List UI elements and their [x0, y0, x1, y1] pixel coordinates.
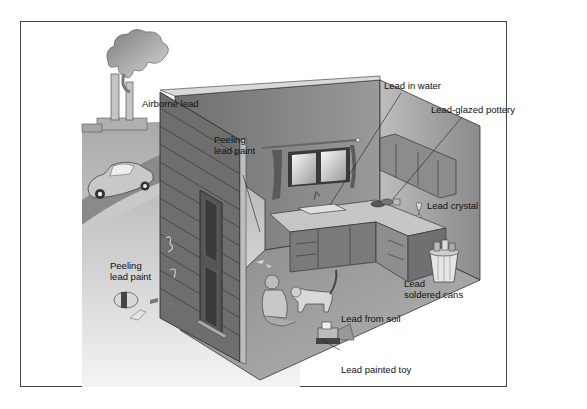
label-lead-soldered-cans: Lead soldered cans — [404, 278, 463, 300]
label-line: lead paint — [214, 145, 255, 156]
label-line: Peeling — [110, 260, 151, 271]
lead-sources-illustration — [0, 0, 587, 409]
factory-smokestacks — [82, 74, 147, 132]
label-lead-glazed-pottery: Lead-glazed pottery — [431, 104, 515, 115]
label-peeling-paint-inside: Peeling lead paint — [214, 134, 255, 156]
label-airborne-lead: Airborne lead — [142, 98, 199, 109]
label-peeling-paint-outside: Peeling lead paint — [110, 260, 151, 282]
label-lead-crystal: Lead crystal — [427, 200, 478, 211]
label-lead-in-water: Lead in water — [384, 80, 441, 91]
label-line: lead paint — [110, 271, 151, 282]
label-line: soldered cans — [404, 289, 463, 300]
label-lead-from-soil: Lead from soil — [341, 313, 401, 324]
label-line: Peeling — [214, 134, 255, 145]
label-line: Lead — [404, 278, 463, 289]
label-lead-painted-toy: Lead painted toy — [341, 364, 411, 375]
